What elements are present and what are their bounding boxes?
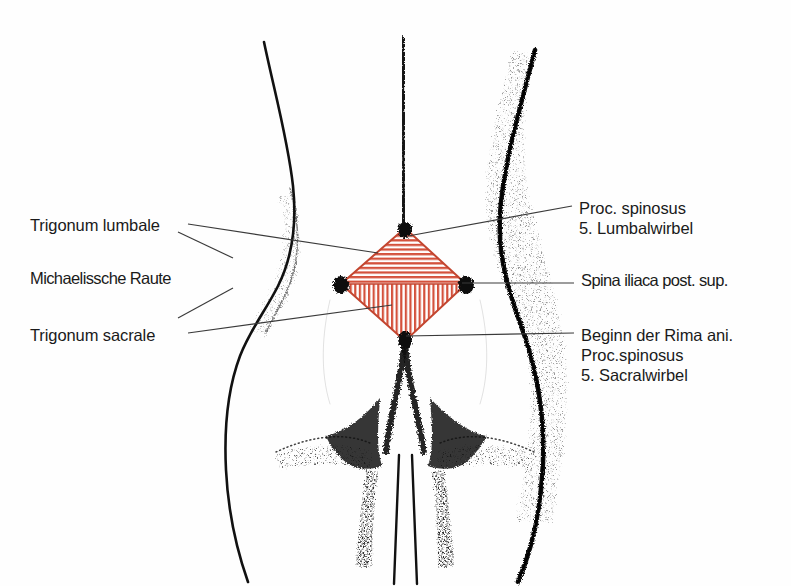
landmark-right-psis <box>458 276 474 294</box>
intergluteal-ridge <box>386 341 405 452</box>
label-michaelissche-raute-text: Michaelissche Raute <box>30 269 171 287</box>
figure-canvas: Trigonum lumbale Michaelissche Raute Tri… <box>0 0 791 586</box>
label-michaelissche-raute: Michaelissche Raute <box>30 268 171 288</box>
label-proc-spinosus-l5-line2: 5. Lumbalwirbel <box>579 218 693 238</box>
label-rima-ani-s5-line2: Proc.spinosus <box>581 345 733 365</box>
label-trigonum-lumbale: Trigonum lumbale <box>30 215 160 235</box>
label-rima-ani-s5-line1: Beginn der Rima ani. <box>581 325 733 345</box>
label-proc-spinosus-l5: Proc. spinosus 5. Lumbalwirbel <box>579 198 693 238</box>
label-trigonum-sacrale: Trigonum sacrale <box>30 325 155 345</box>
label-proc-spinosus-l5-line1: Proc. spinosus <box>579 198 693 218</box>
label-spina-iliaca-post-sup: Spina iliaca post. sup. <box>581 270 728 290</box>
leader-raute-down <box>178 288 233 318</box>
cleft-line-left <box>394 455 399 584</box>
anatomy-illustration <box>0 0 791 586</box>
label-rima-ani-s5: Beginn der Rima ani. Proc.spinosus 5. Sa… <box>581 325 733 385</box>
cleft-line-right <box>412 455 417 584</box>
label-trigonum-lumbale-text: Trigonum lumbale <box>30 216 160 234</box>
landmark-s5-spinous <box>398 331 412 349</box>
label-rima-ani-s5-line3: 5. Sacralwirbel <box>581 365 733 385</box>
label-trigonum-sacrale-text: Trigonum sacrale <box>30 326 155 344</box>
label-spina-iliaca-post-sup-line1: Spina iliaca post. sup. <box>581 270 728 290</box>
leader-trigonum-sacrale <box>188 305 392 333</box>
landmark-left-psis <box>333 276 349 294</box>
leader-raute-up <box>178 232 233 258</box>
michaelis-rhomboid <box>333 222 475 349</box>
